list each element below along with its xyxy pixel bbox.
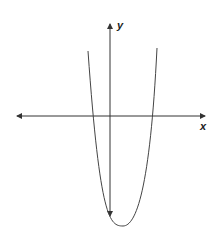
y-axis-label: y <box>117 19 123 31</box>
graph-canvas: y x <box>0 0 215 235</box>
graph-svg <box>0 0 215 235</box>
parabola-curve <box>88 48 157 226</box>
x-axis-label: x <box>200 120 206 132</box>
